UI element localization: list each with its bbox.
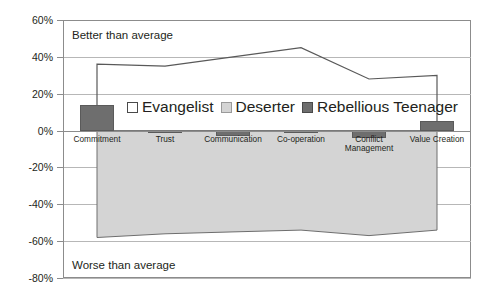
category-label-line: Management	[335, 144, 403, 154]
category-label-communication: Communication	[199, 135, 267, 145]
category-label-line: Commitment	[63, 135, 131, 145]
annotation-worse-than-average: Worse than average	[72, 259, 175, 271]
bar-commitment	[80, 105, 114, 131]
bar-value-creation	[420, 121, 454, 130]
y-tick-60	[57, 20, 63, 21]
y-tick--40	[57, 204, 63, 205]
annotation-better-than-average: Better than average	[72, 29, 173, 41]
y-tick--80	[57, 278, 63, 279]
category-label-conflict: ConflictManagement	[335, 135, 403, 154]
rebellious-teenager-bar-series	[0, 0, 490, 298]
legend-item-evangelist[interactable]: Evangelist	[127, 98, 214, 116]
y-tick-0	[57, 131, 63, 132]
light-gray-square-icon	[221, 102, 232, 113]
open-square-icon	[127, 102, 138, 113]
category-label-line: Value Creation	[403, 135, 471, 145]
y-tick-20	[57, 94, 63, 95]
y-tick--20	[57, 167, 63, 168]
dark-gray-square-icon	[302, 102, 313, 113]
y-tick--60	[57, 241, 63, 242]
category-label-line: Communication	[199, 135, 267, 145]
category-label-value-creation: Value Creation	[403, 135, 471, 145]
category-label-line: Trust	[131, 135, 199, 145]
legend-label-rebellious-teenager: Rebellious Teenager	[317, 98, 458, 116]
legend-item-rebellious-teenager[interactable]: Rebellious Teenager	[302, 98, 458, 116]
legend-item-deserter[interactable]: Deserter	[221, 98, 295, 116]
y-axis-line	[63, 20, 64, 278]
category-label-line: Co-operation	[267, 135, 335, 145]
gridline-0	[63, 131, 471, 132]
chart-container: 60%40%20%0%-20%-40%-60%-80% CommitmentTr…	[0, 0, 490, 298]
legend-label-deserter: Deserter	[236, 98, 295, 116]
y-tick-40	[57, 57, 63, 58]
chart-legend: Evangelist Deserter Rebellious Teenager	[127, 98, 458, 116]
legend-label-evangelist: Evangelist	[142, 98, 214, 116]
category-label-commitment: Commitment	[63, 135, 131, 145]
category-label-co-operation: Co-operation	[267, 135, 335, 145]
category-label-trust: Trust	[131, 135, 199, 145]
